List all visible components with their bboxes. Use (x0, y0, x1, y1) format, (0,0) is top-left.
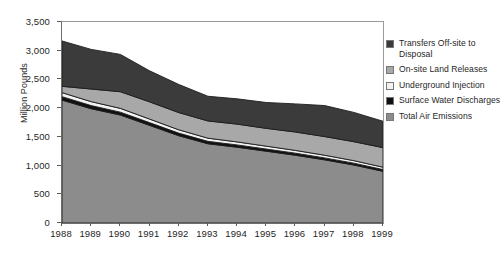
legend-item-label: On-site Land Releases (399, 64, 487, 75)
legend-item[interactable]: Surface Water Discharges (386, 95, 502, 106)
x-axis-tick-label: 1997 (313, 228, 335, 239)
x-axis-tick-mark (90, 222, 91, 226)
x-axis-tick-label: 1996 (284, 228, 306, 239)
x-axis-tick-label: 1989 (79, 228, 101, 239)
x-axis-tick-label: 1998 (342, 228, 364, 239)
y-axis-tick-mark (57, 222, 61, 223)
chart-legend: Transfers Off-site to DisposalOn-site La… (386, 38, 502, 126)
x-axis-tick-mark (207, 222, 208, 226)
x-axis-tick-label: 1999 (371, 228, 393, 239)
y-axis-tick-label: 3,000 (26, 44, 50, 55)
x-axis-tick-mark (61, 222, 62, 226)
x-axis-tick-label: 1993 (196, 228, 218, 239)
x-axis-tick-labels: 1988198919901991199219931994199519961997… (0, 228, 400, 244)
y-axis-tick-mark (57, 107, 61, 108)
y-axis-tick-label: 500 (34, 188, 50, 199)
x-axis-tick-label: 1991 (138, 228, 160, 239)
x-axis-tick-marks (61, 222, 384, 227)
y-axis-tick-label: 2,500 (26, 73, 50, 84)
legend-item-label: Transfers Off-site to Disposal (399, 38, 502, 59)
x-axis-tick-mark (324, 222, 325, 226)
y-axis-tick-mark (57, 50, 61, 51)
legend-item[interactable]: Transfers Off-site to Disposal (386, 38, 502, 59)
x-axis-tick-mark (353, 222, 354, 226)
y-axis-tick-mark (57, 136, 61, 137)
legend-swatch-icon (386, 66, 394, 74)
y-axis-tick-mark (57, 21, 61, 22)
x-axis-tick-label: 1988 (50, 228, 72, 239)
x-axis-tick-mark (265, 222, 266, 226)
legend-swatch-icon (386, 97, 394, 105)
area-series-group (62, 22, 383, 223)
x-axis-tick-mark (149, 222, 150, 226)
x-axis-tick-mark (382, 222, 383, 226)
y-axis-tick-mark (57, 78, 61, 79)
x-axis-tick-mark (236, 222, 237, 226)
y-axis-tick-label: 0 (45, 217, 50, 228)
stacked-area-chart: Million Pounds 05001,0001,5002,0002,5003… (0, 0, 504, 258)
y-axis-tick-label: 1,000 (26, 159, 50, 170)
y-axis-tick-label: 3,500 (26, 16, 50, 27)
x-axis-tick-mark (119, 222, 120, 226)
legend-item-label: Underground Injection (399, 80, 485, 91)
legend-item[interactable]: Total Air Emissions (386, 111, 502, 122)
y-axis-tick-mark (57, 193, 61, 194)
y-axis-tick-mark (57, 165, 61, 166)
x-axis-tick-label: 1995 (254, 228, 276, 239)
x-axis-tick-label: 1994 (225, 228, 247, 239)
legend-item-label: Total Air Emissions (399, 111, 472, 122)
legend-swatch-icon (386, 113, 394, 121)
legend-item-label: Surface Water Discharges (399, 95, 500, 106)
legend-swatch-icon (386, 82, 394, 90)
x-axis-tick-label: 1992 (167, 228, 189, 239)
legend-swatch-icon (386, 40, 394, 48)
x-axis-tick-label: 1990 (109, 228, 131, 239)
x-axis-tick-mark (178, 222, 179, 226)
y-axis-tick-labels: 05001,0001,5002,0002,5003,0003,500 (0, 0, 57, 258)
legend-item[interactable]: Underground Injection (386, 80, 502, 91)
plot-area (61, 21, 384, 224)
x-axis-tick-mark (294, 222, 295, 226)
legend-item[interactable]: On-site Land Releases (386, 64, 502, 75)
y-axis-tick-label: 2,000 (26, 102, 50, 113)
y-axis-tick-label: 1,500 (26, 130, 50, 141)
